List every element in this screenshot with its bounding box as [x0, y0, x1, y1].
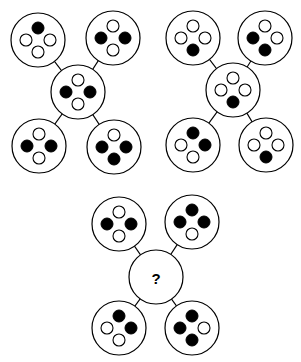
dot-bottom-empty	[113, 334, 125, 346]
dot-top-empty	[107, 20, 119, 32]
dot-left-filled	[247, 32, 259, 44]
dot-top-empty	[33, 128, 45, 140]
dot-bottom-filled	[186, 334, 198, 346]
dot-left-empty	[175, 139, 187, 151]
node-outline-circle	[206, 63, 260, 117]
node-outline-circle	[92, 197, 146, 251]
node-top-left-node	[92, 197, 146, 251]
question-mark-label: ?	[151, 270, 160, 287]
node-bottom-right-node	[239, 118, 293, 172]
dot-bottom-filled	[259, 44, 271, 56]
connector-line	[172, 299, 177, 306]
node-top-right-node	[86, 11, 140, 65]
dot-top-filled	[187, 127, 199, 139]
connector-line	[54, 61, 61, 70]
dot-left-filled	[95, 32, 107, 44]
dot-right-empty	[271, 32, 283, 44]
dot-top-empty	[259, 20, 271, 32]
top-right-group	[166, 11, 293, 172]
dot-bottom-empty	[186, 228, 198, 240]
dot-right-empty	[44, 34, 56, 46]
dot-top-empty	[72, 74, 84, 86]
node-bottom-left-node	[92, 301, 146, 355]
node-unknown: ?	[129, 250, 183, 304]
node-bottom-left-node	[12, 119, 66, 173]
dot-bottom-filled	[260, 151, 272, 163]
dot-bottom-filled	[227, 96, 239, 108]
dot-bottom-empty	[72, 98, 84, 110]
node-outline-circle	[87, 120, 141, 174]
bottom-answer-group: ?	[92, 195, 219, 355]
dot-left-filled	[21, 140, 33, 152]
dot-right-filled	[120, 141, 132, 153]
dot-left-empty	[101, 322, 113, 334]
dot-top-empty	[113, 206, 125, 218]
node-outline-circle	[166, 118, 220, 172]
node-top-left-node	[166, 11, 220, 65]
dot-top-filled	[186, 204, 198, 216]
dot-bottom-empty	[107, 44, 119, 56]
node-outline-circle	[12, 119, 66, 173]
dot-right-empty	[239, 84, 251, 96]
connector-line	[209, 112, 217, 123]
dot-left-filled	[174, 216, 186, 228]
dot-top-empty	[108, 129, 120, 141]
node-top-left-node	[11, 13, 65, 67]
dot-bottom-empty	[187, 151, 199, 163]
node-outline-circle	[166, 11, 220, 65]
dot-right-filled	[119, 32, 131, 44]
puzzle-figure: ?	[0, 0, 301, 362]
dot-right-empty	[198, 322, 210, 334]
dot-left-filled	[60, 86, 72, 98]
node-outline-circle	[11, 13, 65, 67]
connector-line	[171, 245, 177, 255]
node-center-node	[51, 65, 105, 119]
node-outline-circle	[51, 65, 105, 119]
dot-top-filled	[113, 310, 125, 322]
dot-top-empty	[187, 20, 199, 32]
dot-bottom-empty	[32, 46, 44, 58]
node-bottom-right-node	[165, 301, 219, 355]
dot-left-empty	[248, 139, 260, 151]
dot-left-empty	[175, 32, 187, 44]
node-bottom-left-node	[166, 118, 220, 172]
dot-left-empty	[215, 84, 227, 96]
connector-line	[93, 115, 99, 125]
node-top-right-node	[238, 11, 292, 65]
node-top-right-node	[165, 195, 219, 249]
connector-line	[55, 114, 62, 124]
dot-bottom-empty	[113, 230, 125, 242]
dot-bottom-empty	[33, 152, 45, 164]
dot-top-filled	[32, 22, 44, 34]
dot-bottom-filled	[108, 153, 120, 165]
node-outline-circle	[238, 11, 292, 65]
node-outline-circle	[165, 195, 219, 249]
node-outline-circle	[86, 11, 140, 65]
connector-line	[134, 246, 140, 255]
puzzle-canvas: ?	[0, 0, 301, 362]
node-outline-circle	[92, 301, 146, 355]
dot-left-filled	[96, 141, 108, 153]
node-outline-circle	[165, 301, 219, 355]
dot-right-filled	[84, 86, 96, 98]
connector-line	[135, 299, 140, 306]
dot-right-empty	[199, 32, 211, 44]
dot-bottom-filled	[187, 44, 199, 56]
top-left-group	[11, 11, 141, 174]
dot-top-empty	[260, 127, 272, 139]
connector-line	[247, 113, 252, 122]
dot-top-empty	[227, 72, 239, 84]
node-outline-circle	[239, 118, 293, 172]
dot-right-filled	[125, 218, 137, 230]
node-bottom-right-node	[87, 120, 141, 174]
dot-left-filled	[101, 218, 113, 230]
dot-right-filled	[45, 140, 57, 152]
connector-line	[93, 61, 99, 70]
connector-line	[209, 59, 216, 68]
connector-line	[247, 61, 251, 67]
dot-top-filled	[186, 310, 198, 322]
dot-left-filled	[174, 322, 186, 334]
dot-right-filled	[199, 139, 211, 151]
dot-right-empty	[272, 139, 284, 151]
dot-right-filled	[198, 216, 210, 228]
